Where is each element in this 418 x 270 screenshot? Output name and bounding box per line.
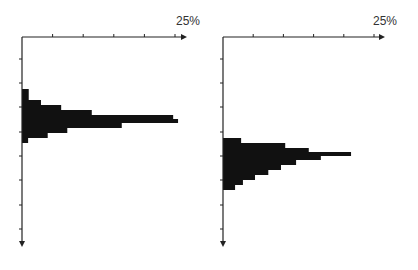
histogram-bar: [223, 165, 281, 170]
histogram-bar: [223, 170, 268, 175]
y-axis-arrow-icon: [220, 241, 226, 247]
histogram-bar: [223, 138, 241, 143]
histogram-bar: [223, 175, 255, 180]
right-histogram-plot: [0, 0, 418, 270]
histogram-bar: [223, 156, 321, 160]
histogram-bar: [223, 180, 243, 185]
histogram-bar: [223, 148, 309, 152]
right-axis-max-label: 25%: [373, 14, 397, 28]
histogram-bar: [223, 143, 285, 148]
histogram-bar: [223, 160, 296, 165]
right-histogram-chart: 25%: [0, 0, 209, 270]
histogram-bar: [223, 152, 351, 156]
histogram-bar: [223, 185, 235, 190]
x-axis-arrow-icon: [379, 34, 385, 40]
